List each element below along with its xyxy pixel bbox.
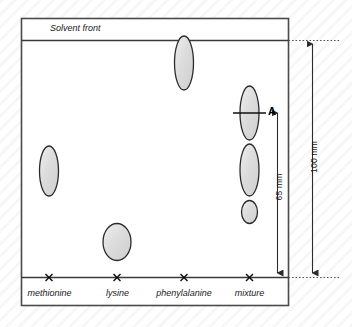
spot-a-label: A bbox=[268, 105, 276, 117]
chromatography-plate-svg bbox=[0, 0, 352, 327]
spot-methionine-1 bbox=[40, 146, 59, 196]
spot-mixture-3 bbox=[242, 201, 258, 224]
chromatography-diagram: Solvent front A 65 mm 100 mm methionine … bbox=[0, 0, 352, 327]
lane-label-mixture: mixture bbox=[227, 288, 272, 298]
lane-label-lysine: lysine bbox=[95, 288, 140, 298]
spot-lysine-1 bbox=[103, 224, 131, 261]
lane-label-phenylalanine: phenylalanine bbox=[149, 288, 219, 298]
solvent-front-label: Solvent front bbox=[50, 23, 101, 33]
spot-phenylalanine-1 bbox=[175, 36, 194, 90]
lane-label-methionine: methionine bbox=[23, 288, 76, 298]
spot-mixture-2 bbox=[240, 144, 259, 196]
dimension-label-65mm: 65 mm bbox=[274, 164, 284, 210]
dimension-label-100mm: 100 mm bbox=[309, 131, 319, 183]
